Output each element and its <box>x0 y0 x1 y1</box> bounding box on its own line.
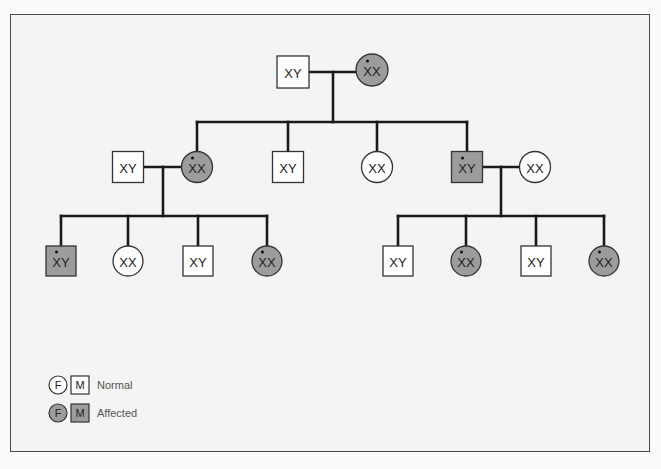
pedigree-chart: XYXXXYXXXYXXXYXXXYXXXYXXXYXXXYXX F M Nor… <box>0 0 661 469</box>
individual-g3-right-1: XY <box>383 246 413 276</box>
individual-g2-son-2: XY <box>452 152 483 183</box>
individual-g2-spouse-left: XY <box>113 152 144 183</box>
genotype-label: XX <box>457 255 475 270</box>
mutant-x-dot-icon <box>366 60 369 63</box>
genotype-label: XY <box>279 161 297 176</box>
genotype-label: XX <box>188 161 206 176</box>
legend-normal-female-label: F <box>55 379 62 391</box>
genotype-label: XY <box>189 255 207 270</box>
genotype-label: XX <box>119 255 137 270</box>
legend-normal-row: F M Normal <box>49 376 132 394</box>
legend-normal-text: Normal <box>97 379 132 391</box>
genotype-label: XY <box>284 66 302 81</box>
mutant-x-dot-icon <box>460 251 463 254</box>
individual-g1-father: XY <box>277 56 309 88</box>
individual-g2-spouse-right: XX <box>520 152 551 183</box>
genotype-label: XY <box>52 255 70 270</box>
genotype-label: XX <box>258 255 276 270</box>
mutant-x-dot-icon <box>191 157 194 160</box>
individual-g3-right-2: XX <box>451 246 481 276</box>
individual-g3-right-4: XX <box>589 246 619 276</box>
individual-g3-left-1: XY <box>46 246 76 276</box>
genotype-label: XX <box>526 161 544 176</box>
individual-g3-left-4: XX <box>252 246 282 276</box>
legend-affected-male-label: M <box>75 407 84 419</box>
genotype-label: XY <box>119 161 137 176</box>
legend-affected-row: F M Affected <box>49 404 137 422</box>
mutant-x-dot-icon <box>461 157 464 160</box>
individual-g3-left-3: XY <box>183 246 213 276</box>
mutant-x-dot-icon <box>261 251 264 254</box>
genotype-label: XY <box>458 161 476 176</box>
individual-g1-mother: XX <box>356 54 388 86</box>
legend-affected-female-label: F <box>55 407 62 419</box>
legend-normal-male-label: M <box>75 379 84 391</box>
legend: F M Normal F M Affected <box>49 376 137 422</box>
individual-g2-daughter-2: XX <box>362 152 393 183</box>
mutant-x-dot-icon <box>55 251 58 254</box>
mutant-x-dot-icon <box>598 251 601 254</box>
individual-g2-son-1: XY <box>273 152 304 183</box>
genotype-label: XY <box>527 255 545 270</box>
genotype-label: XX <box>595 255 613 270</box>
individual-g2-daughter-1: XX <box>182 152 213 183</box>
genotype-label: XX <box>363 64 381 79</box>
genotype-label: XX <box>368 161 386 176</box>
individual-g3-right-3: XY <box>521 246 551 276</box>
individual-g3-left-2: XX <box>113 246 143 276</box>
genotype-label: XY <box>389 255 407 270</box>
legend-affected-text: Affected <box>97 407 137 419</box>
